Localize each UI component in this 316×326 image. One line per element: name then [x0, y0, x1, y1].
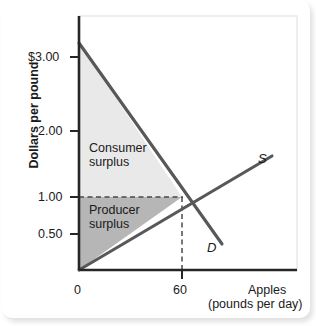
y-tick-label-0point5: 0.50	[38, 227, 62, 241]
x-tick-label-60: 60	[173, 283, 187, 297]
supply-demand-chart	[0, 0, 316, 326]
x-axis-title-line2: (pounds per day)	[208, 297, 303, 311]
x-axis-title: Apples (pounds per day)	[248, 283, 303, 311]
x-axis-title-line1: Apples	[248, 283, 286, 297]
figure-container: Dollars per pound $3.00 2.00 1.00 0.50 0…	[0, 0, 316, 326]
consumer-surplus-label-line2: surplus	[89, 155, 129, 169]
y-tick-label-3: $3.00	[28, 50, 59, 64]
producer-surplus-label: Producer surplus	[89, 203, 140, 231]
y-axis-title: Dollars per pound	[27, 55, 41, 175]
producer-surplus-label-line2: surplus	[89, 217, 129, 231]
y-tick-label-1: 1.00	[38, 190, 62, 204]
consumer-surplus-label: Consumer surplus	[89, 141, 147, 169]
consumer-surplus-label-line1: Consumer	[89, 141, 147, 155]
demand-curve-label: D	[207, 241, 216, 256]
x-tick-label-0: 0	[74, 283, 81, 297]
supply-curve-label: S	[258, 152, 267, 167]
producer-surplus-label-line1: Producer	[89, 203, 140, 217]
y-tick-label-2: 2.00	[38, 124, 62, 138]
